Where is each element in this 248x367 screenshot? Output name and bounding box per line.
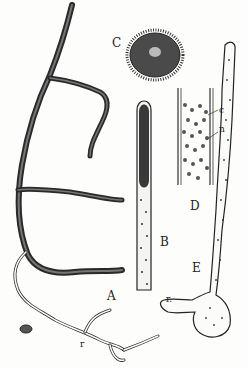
annotation-c: c <box>219 106 224 115</box>
label-a: A <box>107 290 116 302</box>
small-spore <box>20 325 32 333</box>
annotation-n: n <box>219 125 225 134</box>
panel-c-spore <box>127 30 183 80</box>
label-b: B <box>160 236 169 248</box>
panel-d-section <box>178 88 218 185</box>
annotation-r-a: r <box>80 340 84 349</box>
label-d: D <box>190 200 200 212</box>
biological-illustration <box>0 0 248 367</box>
panel-e-germ-tube <box>161 42 236 337</box>
panel-b-hypha-tip <box>137 101 151 290</box>
label-e: E <box>192 262 201 274</box>
label-c: C <box>112 37 121 49</box>
annotation-r-e: r. <box>166 295 172 304</box>
